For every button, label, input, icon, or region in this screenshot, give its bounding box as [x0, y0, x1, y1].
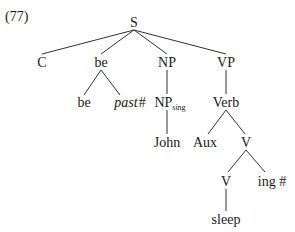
node-be: be — [94, 56, 107, 70]
node-VP: VP — [217, 56, 235, 70]
edge-be-past — [101, 70, 120, 95]
node-Aux: Aux — [193, 136, 217, 150]
np-sing-subscript: sing — [172, 103, 185, 112]
node-John: John — [154, 136, 180, 150]
node-V-upper: V — [241, 136, 251, 150]
example-number: (77) — [5, 10, 28, 24]
np-sing-base: NP — [154, 95, 172, 110]
edge-Verb-Aux — [208, 110, 226, 134]
edge-be-be — [84, 70, 101, 95]
node-be-leaf: be — [77, 96, 90, 110]
edge-Verb-V — [226, 110, 245, 134]
node-S: S — [130, 16, 138, 30]
edge-S-VP — [134, 30, 226, 54]
node-C: C — [37, 56, 46, 70]
past-hash: # — [139, 95, 146, 110]
node-ing: ing # — [258, 175, 286, 189]
node-sleep: sleep — [212, 213, 241, 227]
node-NP-sing: NPsing — [154, 96, 185, 110]
node-NP: NP — [158, 56, 176, 70]
edge-V-ing — [246, 150, 265, 172]
edge-S-NP — [134, 30, 167, 54]
edge-S-be — [101, 30, 134, 54]
tree-edges — [0, 0, 295, 232]
syntax-tree: (77) S C be NP VP be past # NPsing Verb … — [0, 0, 295, 232]
node-Verb: Verb — [213, 96, 239, 110]
edge-S-C — [42, 30, 134, 54]
edge-V-V — [228, 150, 246, 172]
node-past: past # — [114, 96, 146, 110]
past-word: past — [114, 95, 137, 110]
node-V-lower: V — [221, 175, 231, 189]
